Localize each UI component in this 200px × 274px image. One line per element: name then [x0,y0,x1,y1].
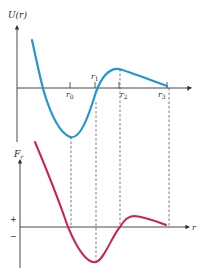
r-axis-label-bottom: r [192,223,197,232]
f-axis-label: Fr [13,149,24,160]
plus-sign: + [10,215,17,224]
potential-panel: U(r) r r0 r1 r2 r3 [8,10,192,142]
guide-lines [71,69,169,262]
potential-curve [32,40,167,137]
r-axis-label-top: r [187,84,192,93]
label-r0: r0 [66,90,74,100]
label-r3: r3 [158,90,166,100]
u-axis-label: U(r) [8,10,27,20]
u-axis-label-r: r [19,10,24,20]
potential-force-diagram: U(r) r r0 r1 r2 r3 Fr r + − [0,0,200,274]
label-r2: r2 [120,90,128,100]
force-curve [35,142,166,262]
label-r1: r1 [91,72,99,82]
minus-sign: − [10,232,17,241]
